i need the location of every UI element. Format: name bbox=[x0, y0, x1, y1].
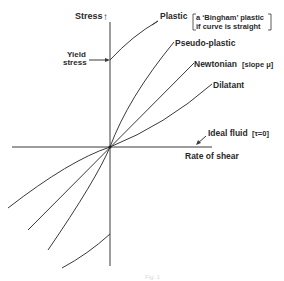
up-arrow-icon: ↑ bbox=[103, 11, 108, 22]
yield-arrowhead-icon bbox=[105, 58, 110, 62]
ideal-fluid-note: [τ=0] bbox=[252, 129, 269, 138]
newtonian-note: [slope μ] bbox=[242, 60, 274, 69]
plastic-note-line1: a ‘Bingham’ plastic bbox=[196, 13, 264, 22]
ideal-fluid-label: Ideal fluid bbox=[208, 128, 248, 138]
plastic-label: Plastic bbox=[160, 11, 188, 21]
yield-label-line2: stress bbox=[63, 58, 87, 67]
stress-axis-label: Stress bbox=[75, 11, 103, 21]
origin-point bbox=[108, 145, 111, 148]
plastic-leader bbox=[152, 21, 158, 25]
diagram-svg: Stress ↑ Yield stress Plastic a ‘Bingham… bbox=[0, 0, 284, 281]
pseudo-plastic-label: Pseudo-plastic bbox=[175, 38, 236, 48]
newtonian-label: Newtonian bbox=[194, 59, 237, 69]
figure-caption: Fig. 1 bbox=[145, 274, 161, 280]
rheology-diagram: Stress ↑ Yield stress Plastic a ‘Bingham… bbox=[0, 0, 284, 281]
bracket-right bbox=[268, 14, 271, 30]
dilatant-label: Dilatant bbox=[213, 80, 244, 90]
rate-of-shear-label: Rate of shear bbox=[185, 151, 240, 161]
plastic-note-line2: if curve is straight bbox=[196, 22, 261, 31]
plastic-curve bbox=[110, 21, 158, 60]
plastic-curve-lower bbox=[62, 234, 110, 268]
